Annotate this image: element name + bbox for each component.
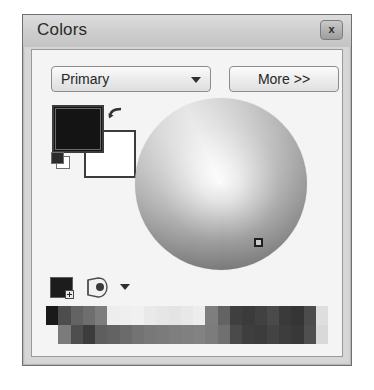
palette-swatch[interactable] [205,306,217,325]
reset-colors-icon[interactable] [51,152,71,170]
palette-swatch[interactable] [107,325,119,344]
palette-swatch[interactable] [230,325,242,344]
palette-swatch[interactable] [169,325,181,344]
palette-swatch[interactable] [144,325,156,344]
more-button[interactable]: More >> [229,66,339,92]
palette-swatch[interactable] [58,325,70,344]
palette-swatch[interactable] [193,325,205,344]
palette-swatch[interactable] [46,325,58,344]
palette-swatch[interactable] [304,306,316,325]
palette-swatch[interactable] [156,325,168,344]
palette-swatch[interactable] [181,306,193,325]
window-titlebar: Colors x [23,15,351,47]
color-mode-select-label: Primary [61,71,109,87]
palette-swatch[interactable] [95,325,107,344]
palette-swatch[interactable] [181,325,193,344]
palette-swatch[interactable] [132,325,144,344]
palette-swatch[interactable] [291,306,303,325]
colors-window: Colors x Primary More >> [22,14,352,366]
colors-panel: Primary More >> [31,49,343,357]
palette-swatch[interactable] [267,325,279,344]
palette-row [46,325,328,344]
palette-swatch[interactable] [316,325,328,344]
color-wheel-cursor[interactable] [254,238,263,247]
palette-swatch[interactable] [95,306,107,325]
add-color-icon[interactable] [50,277,73,298]
palette-swatch[interactable] [83,325,95,344]
palette-swatch[interactable] [255,325,267,344]
palette-row [46,306,328,325]
palette-swatch[interactable] [230,306,242,325]
palette-toolbar [48,274,168,302]
palette-swatch[interactable] [316,306,328,325]
reset-colors-front [51,152,64,164]
palette-swatch[interactable] [71,306,83,325]
add-color-plus-badge [65,290,74,299]
palette-swatch[interactable] [156,306,168,325]
palette-swatch[interactable] [255,306,267,325]
color-mode-select[interactable]: Primary [51,66,211,92]
color-wheel[interactable] [135,98,307,270]
palette-swatch[interactable] [107,306,119,325]
close-button[interactable]: x [320,20,343,40]
palette-swatch[interactable] [71,325,83,344]
palette-swatch[interactable] [242,306,254,325]
palette-swatch[interactable] [242,325,254,344]
palette-grid [46,306,328,344]
palette-swatch[interactable] [279,306,291,325]
palette-swatch[interactable] [291,325,303,344]
palette-swatch[interactable] [58,306,70,325]
palette-swatch[interactable] [205,325,217,344]
palette-swatch[interactable] [304,325,316,344]
chevron-down-icon [191,77,201,83]
palette-swatch[interactable] [120,306,132,325]
palette-swatch[interactable] [144,306,156,325]
palette-menu-chevron-down-icon[interactable] [120,284,130,290]
palette-swatch[interactable] [218,306,230,325]
palette-swatch[interactable] [193,306,205,325]
palette-swatch[interactable] [267,306,279,325]
palette-swatch[interactable] [169,306,181,325]
primary-color-swatch[interactable] [52,105,104,153]
palette-swatch[interactable] [46,306,58,325]
palette-swatch[interactable] [132,306,144,325]
palette-swatch[interactable] [218,325,230,344]
close-icon: x [321,23,342,35]
swap-arrow-icon[interactable] [107,106,125,122]
palette-swatch[interactable] [120,325,132,344]
more-button-label: More >> [230,71,338,87]
palette-swatch[interactable] [279,325,291,344]
palette-icon[interactable] [84,276,110,299]
palette-swatch[interactable] [83,306,95,325]
window-title: Colors [37,20,87,40]
